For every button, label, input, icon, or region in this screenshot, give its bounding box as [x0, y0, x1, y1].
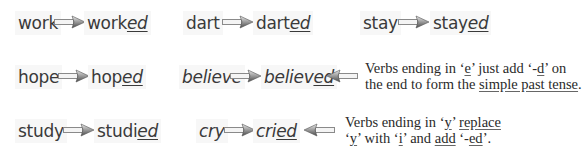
note-text: ’. [483, 130, 491, 146]
note-letter: ed [469, 130, 483, 146]
past-stem: believ [264, 67, 313, 87]
note-line: Verbs ending in ‘y’ replace [345, 114, 501, 130]
note-text: ’ just add ‘- [471, 60, 537, 76]
past-suffix: ed [276, 121, 297, 141]
arrow-right-icon [54, 15, 86, 29]
note-line: ‘y’ with ‘i’ and add ‘-ed’. [345, 130, 501, 146]
past-stem: cri [256, 121, 276, 141]
arrow-right-icon [224, 123, 256, 137]
arrow-right-icon [58, 69, 90, 83]
note-text: . [578, 76, 582, 92]
base-verb: dart [183, 11, 223, 35]
base-verb: cry [196, 119, 228, 143]
past-stem: work [87, 13, 127, 33]
note-text: ’ on [544, 60, 566, 76]
arrow-left-icon [326, 69, 358, 83]
note-text: Verbs ending in ‘ [365, 60, 464, 76]
past-stem: dart [256, 13, 290, 33]
past-suffix: ed [468, 13, 489, 33]
past-suffix: ed [122, 67, 143, 87]
note-text: ’ [452, 114, 459, 130]
simple-past-tense-link[interactable]: simple past tense [479, 76, 578, 92]
past-verb: worked [84, 11, 151, 35]
past-suffix: ed [137, 121, 158, 141]
note-line: Verbs ending in ‘e’ just add ‘-d’ on [365, 60, 582, 76]
note-text: ’ with ‘ [357, 130, 399, 146]
base-verb: hope [15, 65, 62, 89]
past-verb: darted [253, 11, 313, 35]
arrow-right-icon [398, 15, 430, 29]
note-text: ’ and [403, 130, 435, 146]
note-text: Verbs ending in ‘ [345, 114, 444, 130]
past-suffix: ed [290, 13, 311, 33]
rule-note-y: Verbs ending in ‘y’ replace ‘y’ with ‘i’… [345, 114, 501, 146]
base-verb: stay [360, 11, 401, 35]
past-verb: hoped [88, 65, 146, 89]
past-verb: cried [253, 119, 300, 143]
past-stem: studi [97, 121, 137, 141]
past-verb: stayed [430, 11, 491, 35]
arrow-right-icon [63, 123, 95, 137]
past-suffix: ed [127, 13, 148, 33]
note-letter: y [350, 130, 357, 146]
past-stem: hop [91, 67, 122, 87]
base-verb: study [15, 119, 67, 143]
arrow-left-icon [303, 123, 335, 137]
past-verb: studied [94, 119, 161, 143]
arrow-right-icon [230, 69, 262, 83]
arrow-right-icon [222, 15, 254, 29]
note-emphasis: add [435, 130, 456, 146]
rule-note-e: Verbs ending in ‘e’ just add ‘-d’ on the… [365, 60, 582, 92]
note-text: the end to form the [365, 76, 479, 92]
note-line: the end to form the simple past tense. [365, 76, 582, 92]
past-stem: stay [433, 13, 468, 33]
note-emphasis: replace [459, 114, 501, 130]
note-text: ‘- [456, 130, 469, 146]
note-letter: y [444, 114, 451, 130]
